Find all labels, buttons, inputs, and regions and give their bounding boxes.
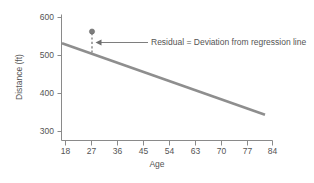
x-tick-label: 77 bbox=[243, 146, 253, 156]
x-axis-ticks bbox=[66, 141, 273, 146]
arrow-left-icon bbox=[96, 40, 102, 46]
y-axis-title: Distance (ft) bbox=[14, 54, 24, 100]
x-tick-label: 45 bbox=[139, 146, 149, 156]
y-tick-label: 400 bbox=[40, 88, 54, 98]
x-tick-label: 63 bbox=[191, 146, 201, 156]
x-tick-label: 70 bbox=[217, 146, 227, 156]
x-axis-title: Age bbox=[149, 159, 164, 169]
y-tick-label: 500 bbox=[40, 50, 54, 60]
y-axis-ticks bbox=[58, 18, 62, 132]
y-tick-label: 300 bbox=[40, 126, 54, 136]
regression-line bbox=[62, 43, 265, 115]
x-tick-label: 54 bbox=[165, 146, 175, 156]
residual-annotation-label: Residual = Deviation from regression lin… bbox=[151, 37, 306, 47]
chart-container: 300 400 500 600 18 27 36 45 54 63 70 77 bbox=[0, 0, 314, 183]
data-point-marker bbox=[89, 29, 94, 34]
x-tick-label: 27 bbox=[87, 146, 97, 156]
y-tick-label: 600 bbox=[40, 12, 54, 22]
x-tick-label: 18 bbox=[61, 146, 71, 156]
regression-residual-chart: 300 400 500 600 18 27 36 45 54 63 70 77 bbox=[0, 0, 314, 183]
x-tick-label: 36 bbox=[113, 146, 123, 156]
y-axis-tick-labels: 300 400 500 600 bbox=[40, 12, 54, 136]
x-axis-tick-labels: 18 27 36 45 54 63 70 77 84 bbox=[61, 146, 278, 156]
x-tick-label: 84 bbox=[268, 146, 278, 156]
